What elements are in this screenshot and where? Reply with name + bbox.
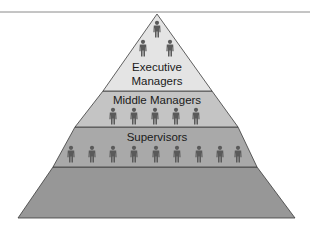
supervisors-label: Supervisors	[127, 131, 188, 144]
executive-label-line-1: Executive	[132, 61, 182, 74]
middle-managers-label: Middle Managers	[113, 94, 201, 107]
layer-base	[18, 167, 295, 218]
executive-label-line-2: Managers	[131, 75, 182, 88]
pyramid-diagram	[0, 0, 310, 229]
